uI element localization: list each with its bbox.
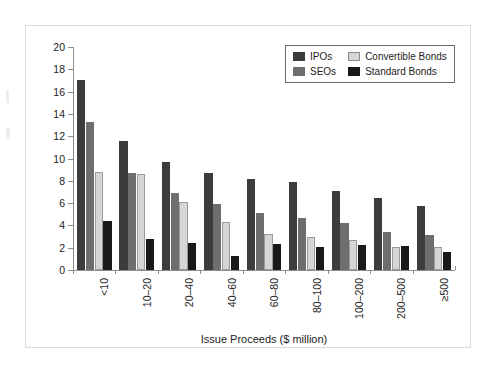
- bar-seos-2: [171, 193, 179, 270]
- x-axis-tick-mark: [285, 270, 286, 274]
- bar-standard-bonds-0: [103, 221, 111, 270]
- x-axis-tick-mark: [243, 270, 244, 274]
- x-axis-tick-mark: [73, 270, 74, 274]
- y-axis-tick-label: 18: [53, 63, 65, 75]
- bar-ipos-1: [119, 141, 127, 270]
- x-axis-tick-label: 10–20: [141, 278, 153, 307]
- x-axis-tick-label: ≥500: [438, 278, 450, 301]
- bar-ipos-4: [247, 179, 255, 270]
- bar-ipos-2: [162, 162, 170, 270]
- bar-convertible-bonds-2: [179, 202, 187, 270]
- x-axis-tick-label: 100–200: [353, 278, 365, 319]
- x-axis-tick-label: 200–500: [395, 278, 407, 319]
- bar-group: 40–60: [200, 47, 242, 270]
- bar-seos-5: [298, 218, 306, 270]
- y-axis-tick-label: 4: [59, 219, 65, 231]
- bar-convertible-bonds-4: [264, 234, 272, 270]
- legend-swatch-icon: [348, 52, 360, 61]
- legend-label: Standard Bonds: [365, 66, 437, 77]
- y-axis-tick-label: 0: [59, 264, 65, 276]
- bar-group: <10: [73, 47, 115, 270]
- page-margin-artifact: [6, 90, 9, 103]
- bar-seos-7: [383, 232, 391, 270]
- bar-convertible-bonds-3: [222, 222, 230, 270]
- bar-group: 10–20: [115, 47, 157, 270]
- page-margin-artifact: [6, 128, 10, 139]
- bar-group: 60–80: [243, 47, 285, 270]
- bar-ipos-7: [374, 198, 382, 270]
- legend-label: Convertible Bonds: [365, 51, 447, 62]
- bar-standard-bonds-2: [188, 243, 196, 270]
- legend-swatch-icon: [348, 67, 360, 76]
- bar-ipos-6: [332, 191, 340, 270]
- y-axis-tick-label: 20: [53, 41, 65, 53]
- y-axis-tick-label: 10: [53, 153, 65, 165]
- bar-seos-3: [213, 204, 221, 270]
- bar-convertible-bonds-7: [392, 247, 400, 270]
- y-axis-tick-label: 14: [53, 108, 65, 120]
- legend-item-ipos: IPOs: [293, 51, 336, 62]
- x-axis-tick-mark: [413, 270, 414, 274]
- bar-standard-bonds-3: [231, 256, 239, 270]
- bar-convertible-bonds-0: [95, 172, 103, 270]
- legend-item-convertible-bonds: Convertible Bonds: [348, 51, 447, 62]
- legend-label: IPOs: [310, 51, 332, 62]
- legend-swatch-icon: [293, 67, 305, 76]
- bar-standard-bonds-1: [146, 239, 154, 270]
- x-axis-title: Issue Proceeds ($ million): [73, 333, 455, 345]
- bar-seos-8: [425, 235, 433, 270]
- bar-ipos-3: [204, 173, 212, 270]
- bar-ipos-0: [77, 80, 85, 270]
- legend-item-standard-bonds: Standard Bonds: [348, 66, 447, 77]
- legend-swatch-icon: [293, 52, 305, 61]
- bar-convertible-bonds-1: [137, 174, 145, 270]
- bar-seos-0: [86, 122, 94, 270]
- bar-seos-6: [340, 223, 348, 270]
- figure-container: Total Direct Costs (%) 02468101214161820…: [0, 0, 497, 373]
- legend-label: SEOs: [310, 66, 336, 77]
- x-axis-tick-mark: [158, 270, 159, 274]
- x-axis-tick-label: <10: [98, 278, 110, 296]
- y-axis-tick-label: 6: [59, 197, 65, 209]
- bar-seos-4: [256, 213, 264, 270]
- bar-convertible-bonds-6: [349, 240, 357, 270]
- x-axis-tick-mark: [455, 266, 456, 270]
- bar-standard-bonds-7: [401, 246, 409, 270]
- bar-convertible-bonds-5: [307, 237, 315, 270]
- bar-standard-bonds-5: [316, 247, 324, 270]
- x-axis-tick-label: 20–40: [183, 278, 195, 307]
- bar-ipos-5: [289, 182, 297, 270]
- x-axis-tick-mark: [370, 270, 371, 274]
- bar-standard-bonds-6: [358, 245, 366, 270]
- y-axis-tick-label: 12: [53, 130, 65, 142]
- legend-item-seos: SEOs: [293, 66, 336, 77]
- bar-convertible-bonds-8: [434, 247, 442, 270]
- bar-group: 20–40: [158, 47, 200, 270]
- x-axis-tick-mark: [115, 270, 116, 274]
- bar-standard-bonds-8: [443, 252, 451, 270]
- bar-seos-1: [128, 173, 136, 270]
- x-axis-tick-mark: [328, 270, 329, 274]
- x-axis-tick-label: 40–60: [226, 278, 238, 307]
- bar-standard-bonds-4: [273, 244, 281, 270]
- y-axis-tick-label: 2: [59, 242, 65, 254]
- bar-ipos-8: [417, 206, 425, 270]
- x-axis-line: [73, 270, 455, 271]
- y-axis-tick-label: 16: [53, 86, 65, 98]
- y-axis-tick-label: 8: [59, 175, 65, 187]
- chart-legend: IPOsConvertible BondsSEOsStandard Bonds: [285, 45, 455, 83]
- x-axis-tick-label: 60–80: [268, 278, 280, 307]
- x-axis-tick-label: 80–100: [311, 278, 323, 313]
- x-axis-tick-mark: [200, 270, 201, 274]
